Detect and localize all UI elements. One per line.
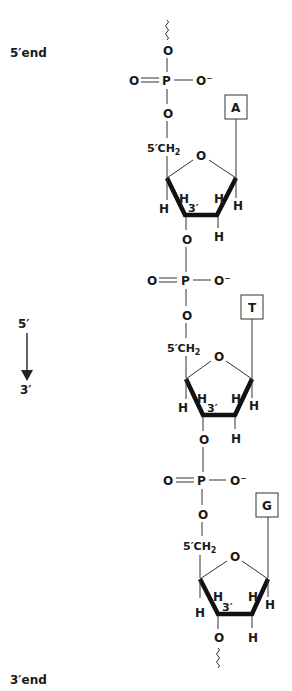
base-label: G [262,499,272,513]
dna-strand-diagram: 5′end 5′ 3′ 3′end O P O O⁻ O 5′CH2 A O H… [0,0,292,691]
five-prime-end-label: 5′end [10,46,47,60]
ring-3prime-label: 3′ [188,202,199,215]
hydrogen-atom: H [265,598,275,612]
three-prime-end-label: 3′end [10,673,47,687]
ring-3prime-label: 3′ [207,402,218,415]
nucleotide-1: O P O O⁻ O 5′CH2 A O H H H H 3′ H [129,20,247,244]
oxygen-atom: O [182,233,192,247]
ring-3prime-label: 3′ [222,601,233,614]
hydrogen-atom: H [214,192,224,206]
hydrogen-atom: H [178,401,188,415]
hydrogen-atom: H [248,631,258,645]
oxygen-atom: O [182,309,192,323]
hydrogen-atom: H [195,606,205,620]
nucleotide-3: P O O⁻ O 5′CH2 G O H H H H 3′ O H [163,474,278,668]
phosphorus-atom: P [181,274,190,288]
hydrogen-atom: H [159,202,169,216]
oxide-atom: O⁻ [214,274,231,288]
phosphorus-atom: P [197,474,206,488]
wavy-break-icon [166,20,169,40]
oxygen-atom: O [163,107,173,121]
double-bond-oxygen: O [163,474,173,488]
ch2-label: 5′CH2 [183,540,216,555]
hydrogen-atom: H [249,399,259,413]
ring-oxygen: O [214,350,224,364]
hydrogen-atom: H [231,392,241,406]
base-label: T [248,301,257,315]
double-bond-oxygen: O [129,74,139,88]
hydrogen-atom: H [214,230,224,244]
hydrogen-atom: H [231,432,241,446]
oxygen-atom: O [199,433,209,447]
direction-3prime-label: 3′ [20,383,32,397]
ch2-label: 5′CH2 [147,142,180,157]
oxygen-atom: O [214,631,224,645]
nucleotide-2: P O O⁻ O 5′CH2 T O H H H H 3′ H [147,274,263,446]
double-bond-oxygen: O [147,274,157,288]
direction-5prime-label: 5′ [18,317,30,331]
wavy-break-icon [217,648,220,668]
phosphorus-atom: P [162,74,171,88]
oxide-atom: O⁻ [230,474,247,488]
hydrogen-atom: H [197,392,207,406]
direction-arrow-icon [21,333,33,381]
ring-oxygen: O [230,550,240,564]
hydrogen-atom: H [248,590,258,604]
oxygen-atom: O [163,44,173,58]
oxide-atom: O⁻ [196,74,213,88]
ch2-label: 5′CH2 [167,342,200,357]
base-label: A [231,101,241,115]
hydrogen-atom: H [233,199,243,213]
oxygen-atom: O [198,508,208,522]
ring-oxygen: O [196,149,206,163]
